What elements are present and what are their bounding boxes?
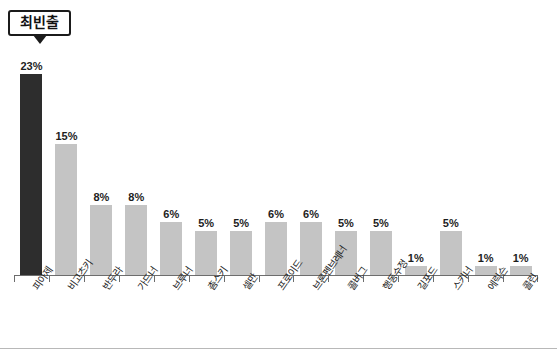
bar-group: 6%	[294, 40, 329, 275]
bar-series: 23%15%8%8%6%5%5%6%6%5%5%1%5%1%1%	[14, 40, 538, 275]
clipped-chart-title	[0, 0, 557, 6]
bar-group: 1%	[503, 40, 538, 275]
bar-highlighted	[20, 74, 42, 275]
bar-group: 15%	[49, 40, 84, 275]
bar-group: 5%	[433, 40, 468, 275]
bar-group: 5%	[328, 40, 363, 275]
bar	[125, 205, 147, 275]
x-axis-tick	[14, 276, 15, 282]
bar-value-label: 6%	[268, 208, 284, 220]
bar-value-label: 5%	[443, 217, 459, 229]
bar-value-label: 6%	[303, 208, 319, 220]
bar-value-label: 5%	[198, 217, 214, 229]
bar-value-label: 15%	[55, 130, 77, 142]
bar-value-label: 5%	[373, 217, 389, 229]
bottom-divider	[0, 348, 557, 349]
bar-group: 23%	[14, 40, 49, 275]
x-axis-category-labels: 피아제비고츠키반두라가드너브루너촘스키셀만프로이드브론펜브레너콜버그행동수정길포…	[14, 284, 538, 346]
bar-group: 5%	[224, 40, 259, 275]
bar-value-label: 1%	[478, 252, 494, 264]
bar-value-label: 8%	[93, 191, 109, 203]
bar-group: 5%	[189, 40, 224, 275]
bar-value-label: 5%	[233, 217, 249, 229]
bar	[230, 231, 252, 275]
most-frequent-callout: 최빈출	[8, 10, 71, 44]
bar-group: 1%	[468, 40, 503, 275]
bar-group: 6%	[259, 40, 294, 275]
bar-value-label: 1%	[513, 252, 529, 264]
bar-group: 8%	[84, 40, 119, 275]
bar-chart: 최빈출 23%15%8%8%6%5%5%6%6%5%5%1%5%1%1% 피아제…	[0, 0, 557, 359]
callout-pointer-icon	[33, 35, 47, 44]
bar-value-label: 5%	[338, 217, 354, 229]
bar-value-label: 8%	[128, 191, 144, 203]
bar-value-label: 23%	[20, 60, 42, 72]
bar-value-label: 1%	[408, 252, 424, 264]
bar-group: 6%	[154, 40, 189, 275]
bar	[55, 144, 77, 275]
bar-group: 5%	[363, 40, 398, 275]
callout-label: 최빈출	[8, 10, 71, 36]
bar-value-label: 6%	[163, 208, 179, 220]
bar-group: 8%	[119, 40, 154, 275]
plot-area: 23%15%8%8%6%5%5%6%6%5%5%1%5%1%1%	[14, 40, 538, 275]
bar-group: 1%	[398, 40, 433, 275]
